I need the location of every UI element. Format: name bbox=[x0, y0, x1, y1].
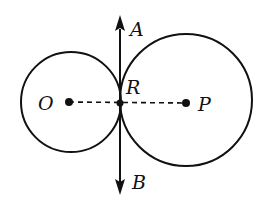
label-r: R bbox=[125, 76, 140, 98]
label-p: P bbox=[197, 93, 212, 115]
tangent-circles-diagram: A B R O P bbox=[0, 0, 269, 205]
point-o bbox=[65, 98, 73, 106]
label-o: O bbox=[38, 92, 54, 114]
center-line-op bbox=[69, 102, 186, 103]
point-r bbox=[117, 100, 124, 107]
arrow-a-icon bbox=[115, 15, 125, 31]
label-b: B bbox=[131, 171, 146, 193]
label-a: A bbox=[128, 18, 144, 40]
point-p bbox=[182, 99, 190, 107]
diagram-canvas: A B R O P bbox=[0, 0, 269, 205]
